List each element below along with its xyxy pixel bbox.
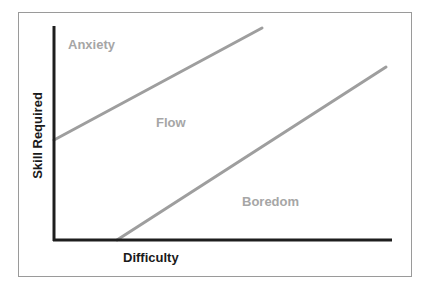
boredom-region-label: Boredom <box>242 194 299 209</box>
flow-diagram <box>0 0 432 291</box>
y-axis-label: Skill Required <box>30 91 45 181</box>
flow-region-label: Flow <box>156 115 186 130</box>
anxiety-region-label: Anxiety <box>68 37 115 52</box>
x-axis-label: Difficulty <box>123 250 179 265</box>
flow-boredom-boundary-line <box>117 67 386 240</box>
